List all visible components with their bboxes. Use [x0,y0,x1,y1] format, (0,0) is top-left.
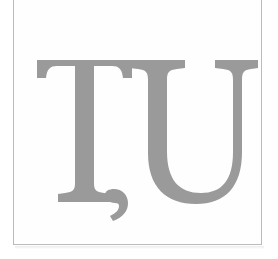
glyph-stage [13,0,262,245]
glyph-artwork [13,0,262,245]
plate-drop-shadow [15,246,264,249]
glyph-t-with-comma-below [37,60,132,221]
glyph-u-body [129,60,258,204]
glyph-u [129,60,258,204]
glyph-t-body [37,60,132,202]
scan-canvas [0,0,278,259]
glyph-comma-below [105,189,128,221]
